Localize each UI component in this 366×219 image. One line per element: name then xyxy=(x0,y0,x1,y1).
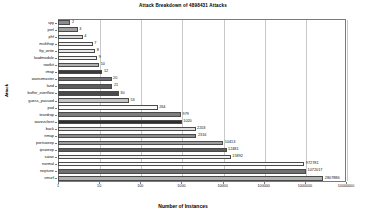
y-axis-tick-label: rootkit xyxy=(43,63,54,67)
bar xyxy=(58,20,70,24)
bar-row: 21 xyxy=(58,84,346,88)
y-axis-tick-labels: spyperlphfmultihopftp_writeloadmoduleroo… xyxy=(0,19,56,182)
bar xyxy=(58,70,102,74)
bar xyxy=(58,120,182,124)
chart-container: Attack Breakdown of 4898431 Attacks Atta… xyxy=(0,0,366,219)
y-axis-tick-mark xyxy=(55,157,57,158)
x-axis-title: Number of Instances xyxy=(0,203,366,209)
y-axis-tick-label: perl xyxy=(48,28,55,32)
bar xyxy=(58,112,181,116)
y-axis-tick-label: teardrop xyxy=(40,113,55,117)
bar-value-label: 12481 xyxy=(228,148,239,152)
bar-value-label: 2 xyxy=(72,21,74,25)
bar-value-label: 20 xyxy=(113,77,117,81)
chart-title: Attack Breakdown of 4898431 Attacks xyxy=(0,3,366,8)
y-axis-tick-mark xyxy=(55,101,57,102)
bar-value-label: 3 xyxy=(79,28,81,32)
y-axis-tick-mark xyxy=(55,23,57,24)
bar-value-label: 21 xyxy=(114,84,118,88)
y-axis-tick-mark xyxy=(55,79,57,80)
bar-value-label: 2316 xyxy=(198,134,206,138)
bar-row: 8 xyxy=(58,49,346,53)
bar-row: 4 xyxy=(58,35,346,39)
y-axis-tick-label: neptune xyxy=(40,169,54,173)
x-axis-tick-labels: 110100100010000100000100000010000000 xyxy=(58,182,346,194)
bar-row: 7 xyxy=(58,42,346,46)
bar-value-label: 2807886 xyxy=(325,177,340,181)
bar-row: 1020 xyxy=(58,120,346,124)
bar-value-label: 972781 xyxy=(306,162,319,166)
bar xyxy=(58,127,196,131)
bar-value-label: 4 xyxy=(84,35,86,39)
y-axis-tick-label: pod xyxy=(48,106,55,110)
bar-value-label: 979 xyxy=(183,113,189,117)
bar-row: 1072017 xyxy=(58,169,346,173)
y-axis-tick-mark xyxy=(55,37,57,38)
bar xyxy=(58,176,323,180)
y-axis-tick-mark xyxy=(55,108,57,109)
bar-value-label: 53 xyxy=(130,99,134,103)
bar-row: 2 xyxy=(58,20,346,24)
bar xyxy=(58,155,231,159)
y-axis-tick-mark xyxy=(55,44,57,45)
y-axis-tick-mark xyxy=(55,72,57,73)
y-axis-tick-mark xyxy=(55,171,57,172)
y-axis-tick-mark xyxy=(55,143,57,144)
bar-row: 979 xyxy=(58,112,346,116)
y-axis-tick-label: ftp_write xyxy=(39,49,54,53)
bar xyxy=(58,105,158,109)
y-axis-tick-mark xyxy=(55,86,57,87)
bar-row: 3 xyxy=(58,27,346,31)
bar-row: 12481 xyxy=(58,148,346,152)
bar-value-label: 8 xyxy=(97,49,99,53)
bar xyxy=(58,35,83,39)
bar xyxy=(58,84,112,88)
bar xyxy=(58,27,78,31)
bar-value-label: 1072017 xyxy=(308,169,323,173)
y-axis-tick-label: loadmodule xyxy=(34,56,54,60)
x-axis-tick-label: 1000000 xyxy=(298,185,312,189)
y-axis-tick-label: multihop xyxy=(39,42,54,46)
bar-series: 2347891012202130532649791020220323161041… xyxy=(58,19,346,182)
y-axis-tick-label: imap xyxy=(46,70,54,74)
bar-row: 53 xyxy=(58,98,346,102)
y-axis-tick-label: land xyxy=(47,84,54,88)
y-axis-tick-mark xyxy=(55,129,57,130)
y-axis-tick-label: portsweep xyxy=(36,141,54,145)
bar-row: 15892 xyxy=(58,155,346,159)
bar xyxy=(58,169,306,173)
bar-row: 30 xyxy=(58,91,346,95)
y-axis-tick-label: smurf xyxy=(44,176,54,180)
bar xyxy=(58,63,99,67)
y-axis-tick-mark xyxy=(55,30,57,31)
bar xyxy=(58,49,95,53)
bar xyxy=(58,42,93,46)
x-axis-tick-label: 10000 xyxy=(217,185,227,189)
bar-row: 2203 xyxy=(58,127,346,131)
bar-value-label: 2203 xyxy=(197,127,205,131)
bar-value-label: 30 xyxy=(120,92,124,96)
y-axis-tick-label: phf xyxy=(49,35,54,39)
x-axis-tick-label: 1000 xyxy=(177,185,185,189)
y-axis-tick-label: buffer_overflow xyxy=(27,91,54,95)
bar-row: 10 xyxy=(58,63,346,67)
bar-row: 972781 xyxy=(58,162,346,166)
bar-row: 12 xyxy=(58,70,346,74)
bar-value-label: 9 xyxy=(99,56,101,60)
y-axis-tick-label: spy xyxy=(48,21,54,25)
x-axis-tick-label: 1 xyxy=(57,185,59,189)
bar-row: 20 xyxy=(58,77,346,81)
y-axis-tick-mark xyxy=(55,136,57,137)
bar-value-label: 264 xyxy=(159,106,165,110)
y-axis-tick-label: guess_passwd xyxy=(28,99,54,103)
bar-value-label: 15892 xyxy=(232,155,243,159)
y-axis-tick-label: back xyxy=(46,127,54,131)
y-axis-tick-label: satan xyxy=(44,155,54,159)
y-axis-tick-mark xyxy=(55,93,57,94)
y-axis-tick-mark xyxy=(55,178,57,179)
bar-value-label: 12 xyxy=(104,70,108,74)
bar-row: 9 xyxy=(58,56,346,60)
y-axis-tick-label: normal xyxy=(42,162,54,166)
bar xyxy=(58,134,196,138)
y-axis-tick-label: warezclient xyxy=(35,120,54,124)
